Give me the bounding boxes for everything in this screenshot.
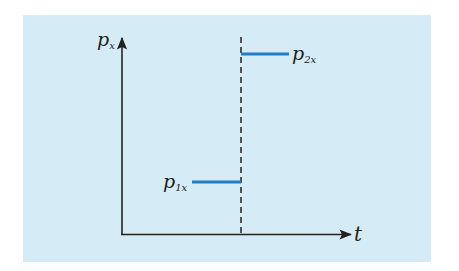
x-axis-label: t (354, 224, 362, 244)
momentum-step-diagram (0, 0, 459, 271)
label-p2x: p2x (292, 44, 316, 65)
label-p1x: p1x (163, 172, 187, 193)
y-axis-label: px (97, 30, 115, 51)
